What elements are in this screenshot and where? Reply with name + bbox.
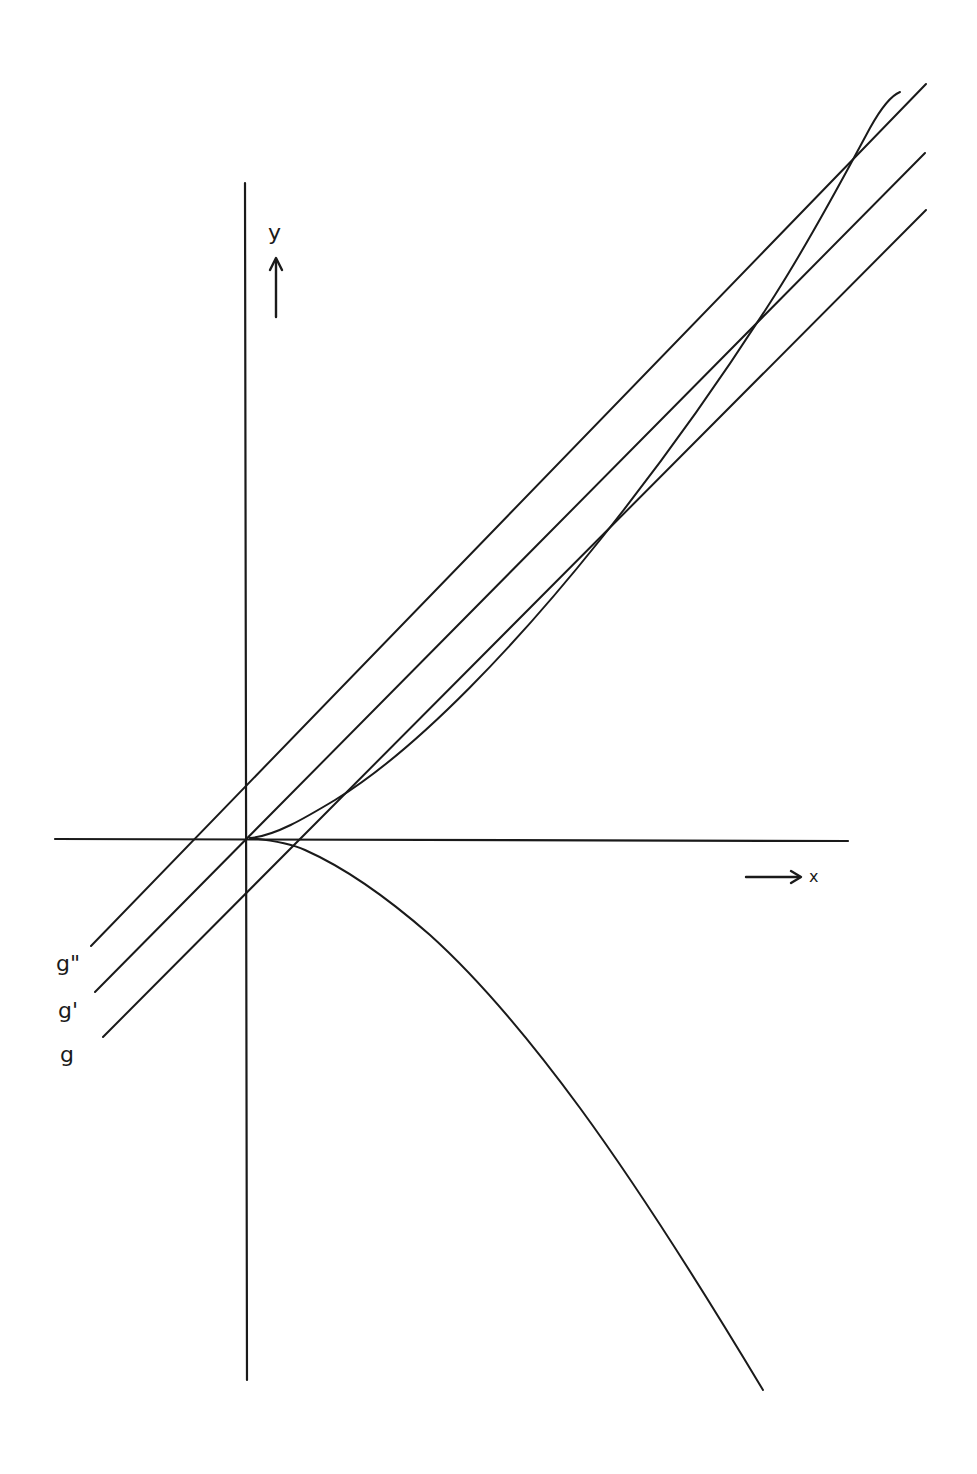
x-axis-label: x	[809, 867, 818, 886]
line-g-double-prime	[91, 84, 926, 946]
x-axis-arrow-icon	[746, 871, 801, 883]
y-axis	[245, 183, 247, 1380]
y-axis-arrow-icon	[270, 258, 282, 317]
line-g-prime-label: g'	[58, 998, 78, 1023]
x-axis	[55, 839, 848, 841]
diagram-canvas: y x g" g' g	[0, 0, 977, 1474]
y-axis-label: y	[268, 220, 281, 245]
line-g-double-prime-label: g"	[56, 951, 80, 976]
line-g-label: g	[60, 1042, 74, 1067]
curve-lower-branch	[250, 838, 763, 1390]
curve-upper-branch	[250, 92, 900, 838]
line-g-prime	[95, 153, 925, 992]
line-g	[103, 210, 926, 1037]
